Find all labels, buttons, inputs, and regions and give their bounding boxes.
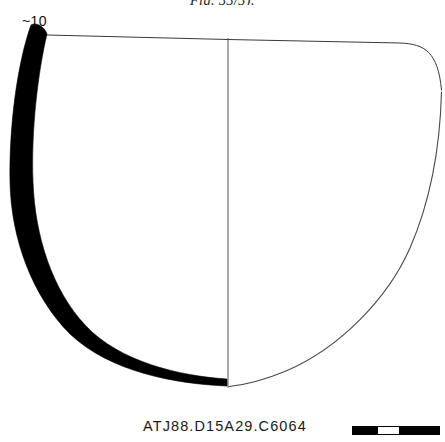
figure-page: Fig. 33/3). ~10 ATJ88.D15A29.C6064 (0, 0, 445, 442)
solid-section-profile (10, 24, 227, 386)
scale-bar-segment-2 (378, 426, 398, 435)
rim-line (47, 35, 442, 90)
scale-bar-segment-1 (352, 426, 378, 435)
scale-bar (352, 426, 440, 435)
reconstructed-outline (229, 92, 442, 387)
scale-bar-segment-3 (399, 426, 440, 435)
catalog-number-label: ATJ88.D15A29.C6064 (143, 418, 307, 434)
vessel-profile-drawing (0, 0, 445, 442)
rim-diameter-label: ~10 (22, 13, 47, 29)
